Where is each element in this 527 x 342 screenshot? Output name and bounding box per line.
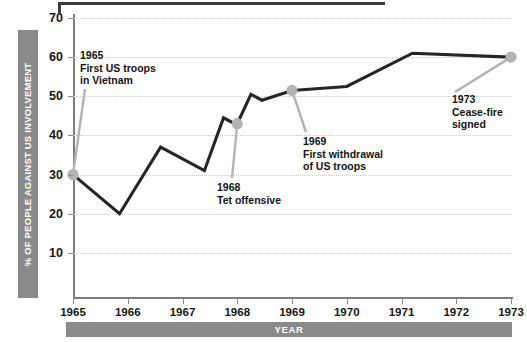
x-tick-label: 1968 (224, 306, 250, 318)
annotation-1969: 1969 First withdrawal of US troops (303, 135, 383, 173)
annotation-leader-line-1 (73, 89, 85, 175)
y-tick-mark (68, 96, 73, 97)
annotation-leader-line-4 (455, 57, 511, 92)
x-tick-label: 1966 (115, 306, 141, 318)
x-tick-mark (347, 297, 348, 304)
annotation-1969-line2: of US troops (303, 160, 383, 173)
x-tick-label: 1965 (60, 306, 86, 318)
annotation-1973-line2: signed (452, 118, 503, 131)
annotation-1969-line1: First withdrawal (303, 148, 383, 161)
annotation-leader-line-3 (292, 90, 306, 132)
x-tick-label: 1971 (389, 306, 415, 318)
annotation-1965-line1: First US troops (80, 62, 156, 75)
x-tick-mark (183, 297, 184, 304)
annotation-1973-year: 1973 (452, 93, 503, 106)
y-tick-mark (68, 214, 73, 215)
x-tick-label: 1969 (279, 306, 305, 318)
x-tick-mark (237, 297, 238, 304)
y-tick-mark (68, 135, 73, 136)
x-tick-label: 1967 (170, 306, 196, 318)
annotation-1973-line1: Cease-fire (452, 106, 503, 119)
annotation-1968: 1968 Tet offensive (217, 181, 281, 206)
annotation-1965-year: 1965 (80, 49, 156, 62)
x-tick-mark (128, 297, 129, 304)
annotation-leader-line-2 (232, 124, 237, 178)
y-tick-mark (68, 253, 73, 254)
x-tick-label: 1973 (498, 306, 524, 318)
y-tick-mark (68, 57, 73, 58)
data-point-marker-1973 (505, 52, 516, 63)
x-tick-mark (292, 297, 293, 304)
chart-container: % OF PEOPLE AGAINST US INVOLVEMENT 10203… (0, 0, 527, 342)
y-tick-mark (68, 18, 73, 19)
annotation-1968-line1: Tet offensive (217, 194, 281, 207)
data-point-marker-1969 (286, 85, 297, 96)
x-tick-mark (456, 297, 457, 304)
y-tick-mark (68, 175, 73, 176)
x-axis-title: YEAR (275, 324, 304, 335)
annotation-1969-year: 1969 (303, 135, 383, 148)
annotation-1965-line2: in Vietnam (80, 74, 156, 87)
x-tick-label: 1972 (443, 306, 469, 318)
annotation-1968-year: 1968 (217, 181, 281, 194)
x-tick-mark (402, 297, 403, 304)
data-point-marker-1968 (232, 118, 243, 129)
annotation-1965: 1965 First US troops in Vietnam (80, 49, 156, 87)
annotation-1973: 1973 Cease-fire signed (452, 93, 503, 131)
x-axis-title-bar: YEAR (66, 322, 512, 337)
x-tick-label: 1970 (334, 306, 360, 318)
x-tick-mark (73, 297, 74, 304)
x-tick-mark (511, 297, 512, 304)
